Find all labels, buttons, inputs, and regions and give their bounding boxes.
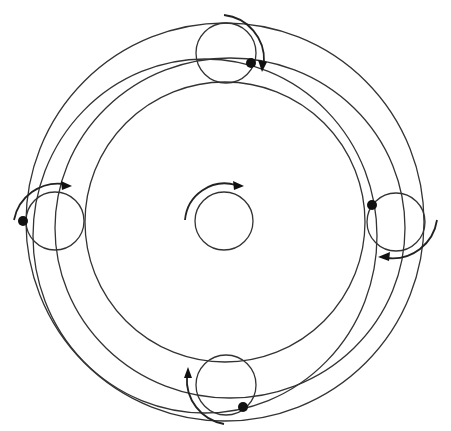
- epicycle-top-arrow: [224, 15, 264, 62]
- arrowhead-icon: [184, 367, 192, 378]
- offset-orbit-circle-a: [33, 59, 377, 413]
- epicycle-bottom-arrow: [187, 376, 224, 424]
- central-rotation-arrow: [185, 183, 236, 220]
- arrowhead-icon: [233, 181, 244, 190]
- epicycle-diagram: [0, 0, 451, 431]
- arrowhead-icon: [378, 252, 390, 261]
- offset-orbit-circle-b: [55, 58, 405, 398]
- epicycle-top: [196, 23, 256, 83]
- arrowhead-icon: [61, 181, 72, 190]
- epicycle-right-arrow: [387, 220, 437, 258]
- planet-right: [367, 200, 377, 210]
- inner-orbit-circle: [85, 82, 365, 362]
- central-body: [195, 192, 253, 250]
- planet-top: [246, 58, 256, 68]
- planet-left: [18, 216, 28, 226]
- planet-bottom: [238, 402, 248, 412]
